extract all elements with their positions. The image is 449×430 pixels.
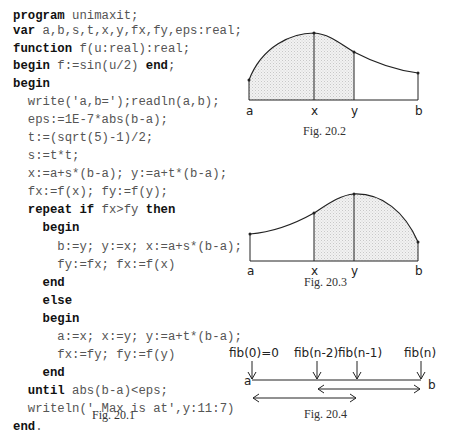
fig2-label-y: y [351, 104, 358, 118]
caption-fig-20-4: Fig. 20.4 [304, 407, 347, 422]
fig4-label-a: a [244, 374, 251, 388]
caption-fig-20-3: Fig. 20.3 [304, 275, 347, 290]
fig4-label-fib-n-1: fib(n-1) [338, 346, 382, 360]
fig3-label-y: y [351, 264, 358, 278]
fig3-label-b: b [415, 264, 423, 278]
fig-20-3-diagram [249, 193, 420, 262]
fig3-label-a: a [247, 264, 254, 278]
fig4-label-fib-n-2: fib(n-2) [294, 346, 338, 360]
fig2-label-a: a [246, 104, 253, 118]
fig-20-2-diagram [248, 32, 420, 101]
fig4-label-fib0: fib(0)=0 [229, 346, 279, 360]
caption-fig-20-2: Fig. 20.2 [303, 124, 346, 139]
figures-canvas [0, 0, 449, 430]
fig4-label-b: b [428, 378, 436, 392]
fig-20-4-diagram [248, 361, 425, 402]
fig2-label-x: x [311, 104, 318, 118]
fig4-label-fib-n: fib(n) [404, 346, 436, 360]
fig2-label-b: b [415, 104, 423, 118]
